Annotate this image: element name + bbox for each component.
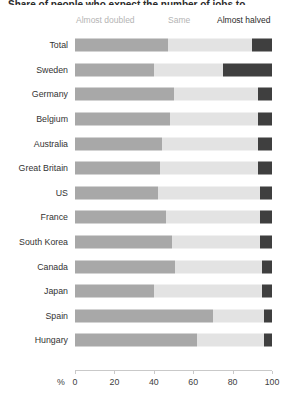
chart-row-label: Total <box>0 40 68 51</box>
chart-row: Japan <box>0 279 294 304</box>
bar-segment-almost-doubled <box>75 113 170 126</box>
x-axis-tick-label: 100 <box>265 377 280 388</box>
chart-row: South Korea <box>0 230 294 255</box>
bar-segment-same <box>213 309 264 322</box>
stacked-bar <box>75 137 272 150</box>
bar-segment-almost-halved <box>262 260 272 273</box>
chart-row: US <box>0 181 294 206</box>
chart-row: Hungary <box>0 328 294 353</box>
stacked-bar <box>75 236 272 249</box>
bar-segment-almost-doubled <box>75 186 158 199</box>
stacked-bar <box>75 186 272 199</box>
bar-segment-same <box>160 162 259 175</box>
chart-row-label: Sweden <box>0 64 68 75</box>
stacked-bar <box>75 285 272 298</box>
chart-row: Total <box>0 33 294 58</box>
bar-segment-almost-doubled <box>75 88 174 101</box>
x-axis-tick <box>154 371 155 374</box>
bar-segment-almost-doubled <box>75 334 197 347</box>
bar-segment-almost-halved <box>262 285 272 298</box>
bar-segment-same <box>154 285 262 298</box>
chart-row-label: Canada <box>0 261 68 272</box>
chart-row-label: South Korea <box>0 237 68 248</box>
stacked-bar <box>75 211 272 224</box>
bar-segment-almost-doubled <box>75 39 168 52</box>
bar-segment-almost-halved <box>260 186 272 199</box>
stacked-bar <box>75 309 272 322</box>
chart-row: Great Britain <box>0 156 294 181</box>
stacked-bar <box>75 63 272 76</box>
chart-row-label: France <box>0 212 68 223</box>
bar-segment-almost-doubled <box>75 309 213 322</box>
bar-segment-almost-doubled <box>75 63 154 76</box>
stacked-bar <box>75 162 272 175</box>
bar-segment-almost-doubled <box>75 260 175 273</box>
chart-row-label: Australia <box>0 138 68 149</box>
bar-segment-same <box>175 260 262 273</box>
x-axis-tick-label: 0 <box>73 377 78 388</box>
x-axis-tick <box>233 371 234 374</box>
chart-row: Canada <box>0 254 294 279</box>
chart-row: Germany <box>0 82 294 107</box>
chart-title: Share of people who expect the number of… <box>8 0 248 5</box>
legend-item-almost-doubled: Almost doubled <box>76 15 135 26</box>
legend-item-same: Same <box>168 15 190 26</box>
bar-segment-same <box>168 39 253 52</box>
bar-segment-almost-doubled <box>75 162 160 175</box>
bar-segment-almost-halved <box>258 137 272 150</box>
x-axis-unit-label: % <box>57 377 65 388</box>
x-axis-tick-label: 40 <box>149 377 159 388</box>
chart-row: France <box>0 205 294 230</box>
stacked-bar <box>75 260 272 273</box>
bar-segment-almost-halved <box>260 236 272 249</box>
bar-segment-almost-doubled <box>75 211 166 224</box>
stacked-bar <box>75 88 272 101</box>
x-axis-tick-label: 60 <box>188 377 198 388</box>
bar-segment-almost-halved <box>260 211 272 224</box>
chart-row-label: Belgium <box>0 114 68 125</box>
bar-segment-almost-doubled <box>75 236 172 249</box>
chart-row: Sweden <box>0 58 294 83</box>
bar-segment-same <box>158 186 260 199</box>
bar-segment-almost-halved <box>264 334 272 347</box>
legend-item-almost-halved: Almost halved <box>217 15 270 26</box>
chart-row-label: Hungary <box>0 335 68 346</box>
stacked-bar-chart: Share of people who expect the number of… <box>0 0 294 412</box>
bar-segment-same <box>172 236 261 249</box>
x-axis-tick <box>75 371 76 374</box>
bar-segment-almost-doubled <box>75 137 162 150</box>
chart-row: Belgium <box>0 107 294 132</box>
chart-row-label: Great Britain <box>0 163 68 174</box>
chart-row-label: US <box>0 187 68 198</box>
bar-segment-same <box>166 211 261 224</box>
chart-row-label: Japan <box>0 286 68 297</box>
x-axis-ticks <box>0 371 294 376</box>
bar-segment-almost-doubled <box>75 285 154 298</box>
bar-segment-almost-halved <box>258 88 272 101</box>
bar-segment-almost-halved <box>223 63 272 76</box>
x-axis-tick-label: 20 <box>109 377 119 388</box>
x-axis-labels: 020406080100 <box>0 377 294 391</box>
bar-segment-almost-halved <box>252 39 272 52</box>
bar-segment-same <box>162 137 259 150</box>
x-axis-tick <box>272 371 273 374</box>
bar-segment-same <box>174 88 259 101</box>
chart-row-label: Germany <box>0 89 68 100</box>
plot-area: TotalSwedenGermanyBelgiumAustraliaGreat … <box>0 33 294 370</box>
x-axis-tick-label: 80 <box>228 377 238 388</box>
bar-segment-almost-halved <box>264 309 272 322</box>
bar-segment-same <box>170 113 259 126</box>
bar-segment-same <box>197 334 264 347</box>
bar-segment-almost-halved <box>258 162 272 175</box>
chart-row: Spain <box>0 304 294 329</box>
stacked-bar <box>75 39 272 52</box>
stacked-bar <box>75 113 272 126</box>
chart-legend: Almost doubled Same Almost halved <box>0 15 294 29</box>
bar-segment-almost-halved <box>258 113 272 126</box>
chart-row-label: Spain <box>0 310 68 321</box>
x-axis-tick <box>193 371 194 374</box>
x-axis-tick <box>114 371 115 374</box>
bar-segment-same <box>154 63 223 76</box>
stacked-bar <box>75 334 272 347</box>
chart-row: Australia <box>0 131 294 156</box>
